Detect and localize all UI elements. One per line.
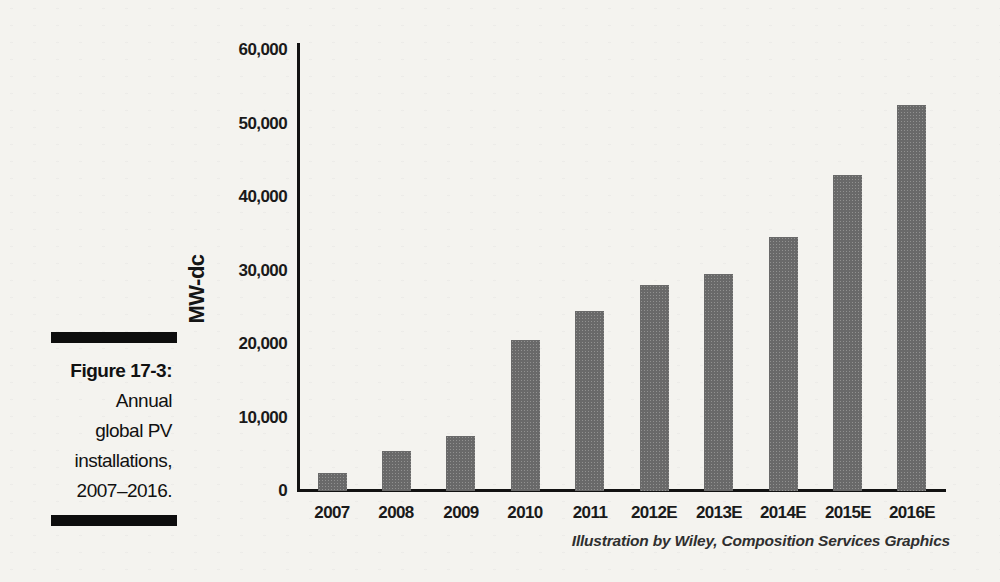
figure-caption: Figure 17-3: Annualglobal PVinstallation… [8, 356, 172, 506]
x-tick-label: 2016E [879, 502, 945, 524]
bar-2016E [897, 105, 926, 491]
caption-rule-bottom [51, 515, 177, 526]
y-tick-label: 50,000 [200, 114, 287, 134]
x-tick-label: 2008 [363, 502, 429, 524]
figure-label: Figure 17-3: [8, 356, 172, 386]
y-tick-label: 10,000 [200, 408, 287, 428]
figure-caption-lines: Annualglobal PVinstallations,2007–2016. [8, 386, 172, 506]
x-tick-label: 2013E [686, 502, 752, 524]
caption-rule-top [51, 332, 177, 343]
bar-2007 [318, 473, 347, 491]
x-tick-label: 2015E [815, 502, 881, 524]
attribution-credit: Illustration by Wiley, Composition Servi… [572, 532, 950, 550]
bar-2014E [769, 237, 798, 491]
x-tick-label: 2009 [428, 502, 494, 524]
bar-2008 [382, 451, 411, 491]
y-tick-label: 40,000 [200, 187, 287, 207]
x-tick-label: 2007 [299, 502, 365, 524]
x-tick-label: 2012E [621, 502, 687, 524]
x-tick-label: 2011 [557, 502, 623, 524]
caption-line: global PV [8, 416, 172, 446]
book-page: Figure 17-3: Annualglobal PVinstallation… [0, 0, 1000, 582]
bar-2012E [640, 285, 669, 491]
bar-2009 [446, 436, 475, 491]
caption-line: 2007–2016. [8, 476, 172, 506]
bar-2010 [511, 340, 540, 491]
y-tick-label: 30,000 [200, 261, 287, 281]
caption-line: installations, [8, 446, 172, 476]
bar-2015E [833, 175, 862, 491]
y-tick-label: 20,000 [200, 334, 287, 354]
bar-2013E [704, 274, 733, 491]
caption-line: Annual [8, 386, 172, 416]
y-tick-label: 0 [200, 481, 287, 501]
y-axis-line [297, 43, 300, 492]
x-tick-label: 2014E [750, 502, 816, 524]
x-tick-label: 2010 [492, 502, 558, 524]
bar-2011 [575, 311, 604, 491]
y-tick-label: 60,000 [200, 40, 287, 60]
